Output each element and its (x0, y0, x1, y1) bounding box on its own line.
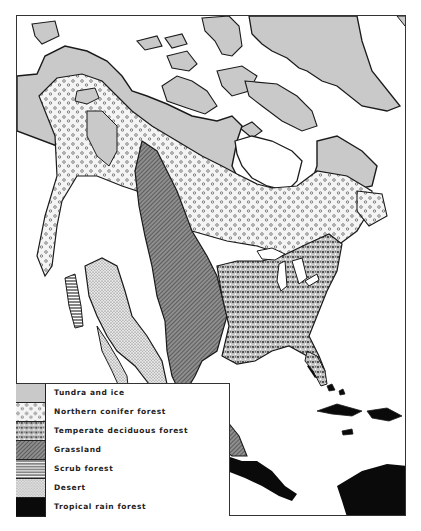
legend-label: Northern conifer forest (54, 407, 166, 416)
caribbean-islands (317, 384, 402, 435)
map-legend: Tundra and ice Northern conifer forest T… (16, 383, 230, 516)
legend-item-desert: Desert (16, 479, 230, 498)
legend-item-tundra: Tundra and ice (16, 384, 230, 403)
legend-item-rainforest: Tropical rain forest (16, 498, 230, 517)
grassland-swatch (16, 441, 46, 460)
legend-label: Temperate deciduous forest (54, 426, 188, 435)
legend-item-grassland: Grassland (16, 441, 230, 460)
legend-label: Scrub forest (54, 464, 113, 473)
desert-swatch (16, 479, 46, 498)
rainforest-swatch (16, 498, 46, 517)
legend-label: Grassland (54, 445, 102, 454)
scrub-forest-region (65, 274, 83, 328)
scrub-swatch (16, 460, 46, 479)
tundra-swatch (16, 384, 46, 403)
legend-item-scrub: Scrub forest (16, 460, 230, 479)
florida-region (305, 351, 327, 386)
legend-label: Tropical rain forest (54, 502, 146, 511)
legend-label: Tundra and ice (54, 388, 125, 397)
legend-label: Desert (54, 483, 86, 492)
conifer-swatch (16, 403, 46, 422)
legend-item-conifer: Northern conifer forest (16, 403, 230, 422)
legend-item-deciduous: Temperate deciduous forest (16, 422, 230, 441)
deciduous-swatch (16, 422, 46, 441)
